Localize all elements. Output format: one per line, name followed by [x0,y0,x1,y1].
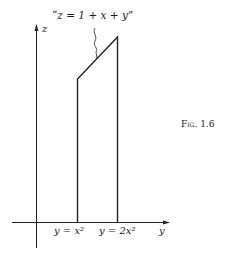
figure-caption: Fig. 1.6 [181,120,214,129]
diagram-canvas [0,0,231,260]
boundary-label-left: y = x² [54,226,84,236]
z-axis-label: z [42,24,47,34]
z-axis-arrow-icon [35,24,39,31]
y-axis-arrow-icon [163,221,170,225]
boundary-label-right: y = 2x² [99,226,135,236]
y-axis-label: y [159,226,165,236]
annotation-label: “z = 1 + x + y” [52,10,133,21]
region-outline [78,37,118,222]
annotation-pointer [94,28,97,58]
